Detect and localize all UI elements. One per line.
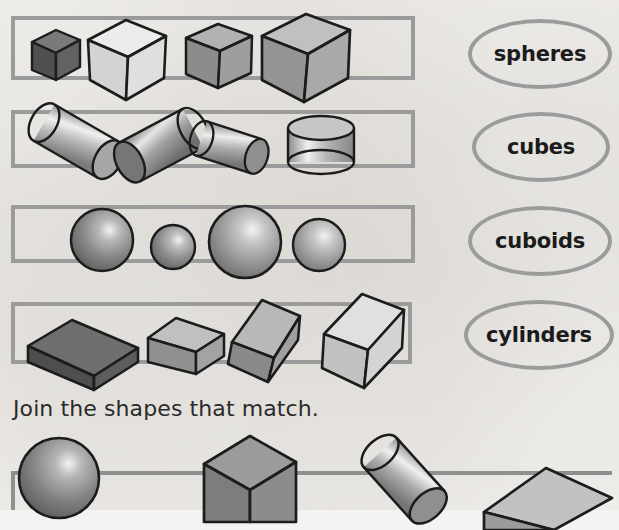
category-oval-cuboids[interactable]: cuboids bbox=[468, 206, 612, 276]
shape-row-box-cubes bbox=[11, 16, 415, 80]
category-oval-cubes[interactable]: cubes bbox=[472, 112, 610, 182]
shape-cuboid-bottom bbox=[472, 458, 619, 530]
category-label-cubes: cubes bbox=[507, 135, 575, 159]
bottom-row-border-top bbox=[11, 471, 612, 475]
shape-row-box-cylinders bbox=[11, 110, 415, 168]
shape-cylinder-bottom bbox=[352, 438, 464, 524]
category-label-spheres: spheres bbox=[494, 42, 586, 66]
category-label-cuboids: cuboids bbox=[495, 229, 585, 253]
instruction-text: Join the shapes that match. bbox=[13, 396, 319, 421]
shape-sphere-bottom bbox=[16, 434, 102, 520]
category-oval-cylinders[interactable]: cylinders bbox=[464, 300, 614, 370]
shape-row-box-cuboids bbox=[11, 302, 412, 364]
category-label-cylinders: cylinders bbox=[486, 323, 592, 347]
bottom-row-border-left bbox=[11, 471, 15, 510]
shape-row-box-spheres bbox=[11, 205, 415, 263]
category-oval-spheres[interactable]: spheres bbox=[468, 19, 612, 89]
